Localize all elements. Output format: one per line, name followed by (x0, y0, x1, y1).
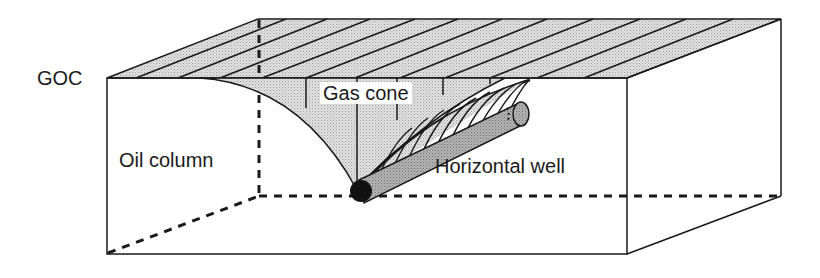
oil-column-label: Oil column (119, 150, 213, 170)
horizontal-well-label: Horizontal well (435, 156, 565, 176)
gas-cone-label: Gas cone (320, 82, 412, 104)
goc-label: GOC (37, 68, 83, 88)
top-face-gas-cap (107, 19, 781, 78)
reservoir-block-diagram (0, 0, 820, 278)
well-heel-icon (350, 180, 372, 202)
